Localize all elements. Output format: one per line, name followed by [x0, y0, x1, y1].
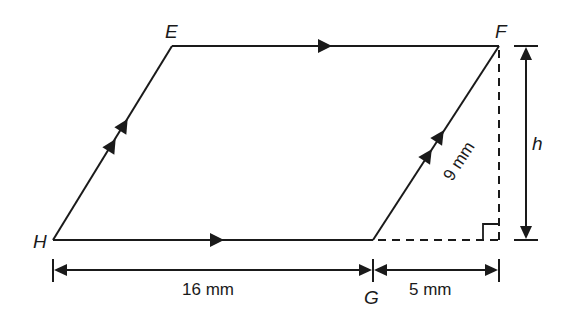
- arrow-icon-HG: [210, 233, 224, 247]
- arrow-icon-EF: [318, 39, 332, 53]
- parallel-double-arrow-icons: [102, 115, 449, 164]
- side-GF: [373, 46, 499, 240]
- vertex-label-E: E: [165, 21, 178, 42]
- vertex-label-G: G: [364, 287, 379, 308]
- arrow-right-icon: [485, 264, 498, 276]
- base-length-label: 16 mm: [182, 280, 234, 299]
- arrow-right-icon: [359, 264, 372, 276]
- parallel-single-arrow-icons: [210, 39, 332, 247]
- vertex-label-H: H: [33, 231, 47, 252]
- side-length-label: 9 mm: [439, 138, 478, 184]
- double-arrow-icon-HE-1: [114, 115, 133, 134]
- extension-length-label: 5 mm: [409, 280, 452, 299]
- vertex-label-F: F: [495, 21, 508, 42]
- construction-lines: [378, 50, 499, 240]
- right-angle-icon: [483, 224, 499, 240]
- double-arrow-icon-GF-2: [418, 145, 437, 164]
- arrow-left-icon: [54, 264, 67, 276]
- arrow-left-icon: [374, 264, 387, 276]
- base-dimension: [53, 259, 499, 282]
- double-arrow-icon-HE-2: [102, 135, 121, 154]
- double-arrow-icon-GF-1: [430, 126, 449, 145]
- parallelogram-diagram: E F H G h 9 mm 16 mm 5 mm: [0, 0, 565, 332]
- height-label: h: [532, 133, 543, 154]
- parallelogram-sides: [53, 46, 499, 240]
- arrow-down-icon: [520, 226, 532, 239]
- arrow-up-icon: [520, 47, 532, 60]
